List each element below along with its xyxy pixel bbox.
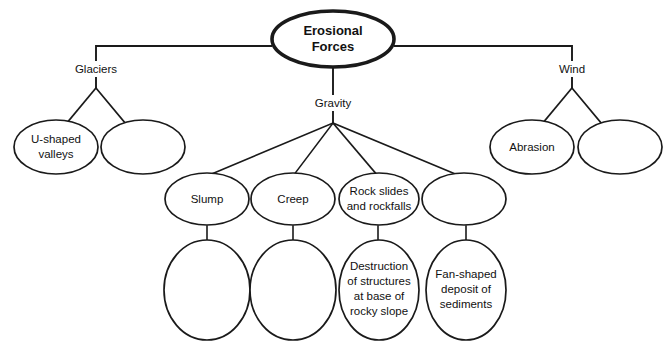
edge-wind-child2 [572,88,602,124]
node-gravity-blank[interactable] [422,173,506,225]
branch-label-glaciers: Glaciers [75,63,117,75]
edge-wind-child1 [542,88,572,124]
node-glaciers-blank[interactable] [101,120,185,174]
destruction-label-line1: Destruction [350,260,408,272]
edge-glaciers-child2 [96,88,126,124]
node-rock-slides-and-rockfalls[interactable]: Rock slides and rockfalls [339,173,419,225]
root-label-line1: Erosional [303,23,362,38]
destruction-label-line2: of structures [347,275,411,287]
edge-root-to-wind [394,46,572,88]
node-u-shaped-valleys[interactable]: U-shaped valleys [14,120,98,174]
node-erosional-forces[interactable]: Erosional Forces [272,11,394,67]
wind-blank-ellipse [578,120,662,174]
root-label-line2: Forces [312,39,355,54]
node-destruction-of-structures[interactable]: Destruction of structures at base of roc… [339,240,419,340]
node-abrasion[interactable]: Abrasion [490,120,574,174]
node-slump[interactable]: Slump [165,173,249,225]
creep-detail-ellipse [250,240,336,340]
node-slump-detail[interactable] [164,240,250,340]
rock-slides-ellipse [339,173,419,225]
rock-slides-label-line2: and rockfalls [347,200,412,212]
creep-label: Creep [277,193,308,205]
abrasion-label: Abrasion [509,141,554,153]
destruction-label-line3: at base of [354,290,405,302]
gravity-blank-ellipse [422,173,506,225]
branch-label-gravity: Gravity [315,97,352,109]
concept-map-container: Glaciers Gravity Wind Erosional Forces U… [0,0,666,342]
destruction-label-line4: rocky slope [350,305,408,317]
node-creep-detail[interactable] [250,240,336,340]
node-creep[interactable]: Creep [251,173,335,225]
u-shaped-valleys-ellipse [14,120,98,174]
slump-label: Slump [191,193,224,205]
fan-shaped-label-line1: Fan-shaped [435,268,496,280]
concept-map-svg: Glaciers Gravity Wind Erosional Forces U… [0,0,666,342]
top-scan-artifact [4,0,254,9]
u-shaped-valleys-label-line2: valleys [38,148,73,160]
edge-glaciers-child1 [66,88,96,124]
branch-label-wind: Wind [559,63,585,75]
glaciers-blank-ellipse [101,120,185,174]
edge-gravity-child4 [333,123,460,176]
fan-shaped-label-line3: sediments [440,298,493,310]
fan-shaped-label-line2: deposit of [441,283,492,295]
node-fan-shaped-deposit[interactable]: Fan-shaped deposit of sediments [426,240,506,340]
edge-root-to-glaciers [96,46,272,88]
slump-detail-ellipse [164,240,250,340]
edge-gravity-child1 [207,123,333,176]
rock-slides-label-line1: Rock slides [350,185,409,197]
u-shaped-valleys-label-line1: U-shaped [31,133,81,145]
node-wind-blank[interactable] [578,120,662,174]
edge-gravity-child3 [333,123,378,176]
